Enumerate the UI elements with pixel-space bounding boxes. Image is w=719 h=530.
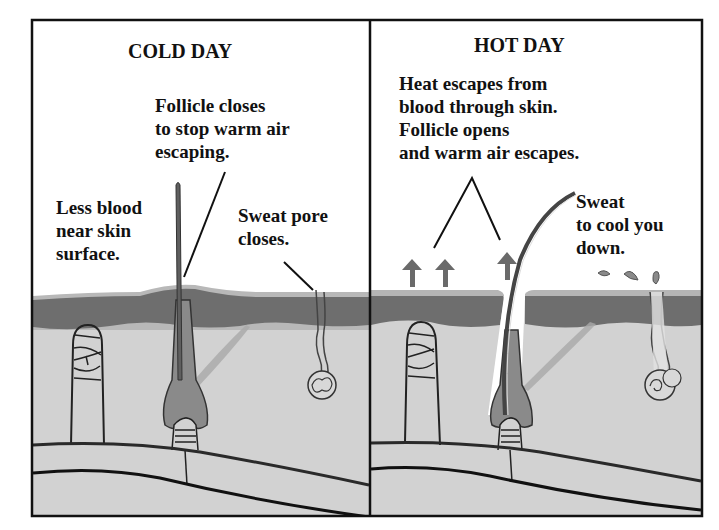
cold-day-title: COLD DAY <box>128 40 232 63</box>
cold-follicle-label: Follicle closes to stop warm air escapin… <box>155 94 290 163</box>
diagram-artwork <box>0 0 719 530</box>
skin-temperature-diagram: COLD DAY Follicle closes to stop warm ai… <box>0 0 719 530</box>
cold-blood-label: Less blood near skin surface. <box>56 196 142 265</box>
hot-day-title: HOT DAY <box>474 34 565 57</box>
hot-sweat-label: Sweat to cool you down. <box>576 190 664 259</box>
cold-sweat-label: Sweat pore closes. <box>238 204 328 250</box>
hot-heat-label: Heat escapes from blood through skin. Fo… <box>399 72 579 164</box>
